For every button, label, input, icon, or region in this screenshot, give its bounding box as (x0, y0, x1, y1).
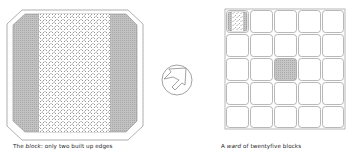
ward-cell (251, 107, 273, 128)
block-open-center (39, 14, 110, 132)
ward-cell (299, 35, 321, 57)
ward-cell (275, 11, 297, 33)
ward-cell (275, 35, 297, 57)
ward-cell (227, 83, 249, 105)
ward-grid-diagram (222, 6, 348, 132)
ward-cell (323, 35, 344, 57)
ward-cell-block-detail (228, 12, 247, 31)
block-caption: The block: only two built up edges (13, 143, 113, 149)
ward-cell (299, 11, 321, 33)
arrow-in-circle-icon (160, 62, 196, 98)
ward-caption: A ward of twentyfive blocks (221, 143, 301, 149)
ward-cell (323, 83, 344, 105)
ward-cell (299, 83, 321, 105)
ward-cell-shaded (275, 59, 297, 81)
ward-cell (275, 107, 297, 128)
ward-cell (299, 107, 321, 128)
ward-cell (227, 35, 249, 57)
ward-cell (299, 59, 321, 81)
ward-cell (251, 59, 273, 81)
ward-cell (323, 11, 344, 33)
ward-cell (227, 59, 249, 81)
ward-cell (323, 107, 344, 128)
block-diagram (0, 0, 160, 142)
ward-cell (251, 11, 273, 33)
ward-cell (227, 107, 249, 128)
ward-cell (323, 59, 344, 81)
ward-cell (275, 83, 297, 105)
ward-cell (251, 35, 273, 57)
ward-cell (251, 83, 273, 105)
